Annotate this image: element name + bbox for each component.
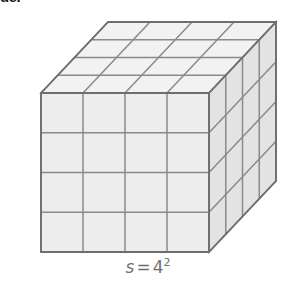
caption-base: 4 <box>153 257 164 277</box>
cube-front-face <box>41 93 209 252</box>
caption-operator: = <box>134 257 152 277</box>
figure-caption: s=42 <box>0 256 296 277</box>
figure-root: de. <box>0 0 296 284</box>
cube-illustration <box>0 0 296 284</box>
caption-exponent: 2 <box>163 256 170 269</box>
